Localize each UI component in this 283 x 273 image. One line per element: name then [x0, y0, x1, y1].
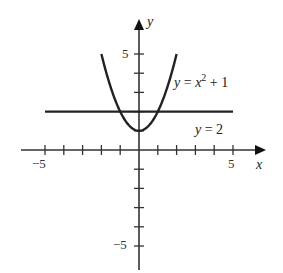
- x-axis-label: x: [255, 157, 263, 172]
- y-axis-arrow-icon: [134, 19, 144, 30]
- axes: [21, 19, 266, 270]
- x-tick-label-neg5: −5: [32, 156, 46, 171]
- x-tick-label-5: 5: [228, 156, 235, 171]
- y-axis-label: y: [145, 14, 154, 29]
- y-tick-label-neg5: −5: [113, 237, 127, 252]
- x-axis-arrow-icon: [255, 145, 266, 155]
- y-tick-label-5: 5: [122, 46, 129, 61]
- parabola-label: y = x2 + 1: [172, 72, 228, 90]
- line-label: y = 2: [193, 122, 223, 137]
- chart: −5 5 5 −5 x y y = x2 + 1 y = 2: [0, 0, 283, 273]
